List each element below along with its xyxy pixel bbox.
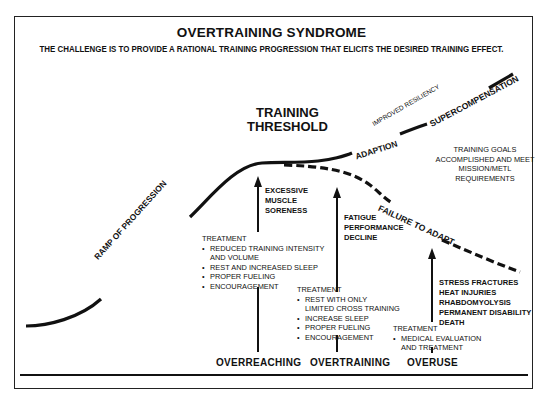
overreaching-treatment: TREATMENT REDUCED TRAINING INTENSITY AND… (202, 234, 324, 292)
goals-line: MISSION/METL (435, 164, 535, 174)
stage-overtraining: OVERTRAINING (310, 357, 390, 368)
decline-dashed-lower (442, 240, 520, 272)
goals-line: REQUIREMENTS (435, 174, 535, 184)
treatment-item: REST AND INCREASED SLEEP (202, 263, 324, 273)
symptom: RHABDOMYOLYSIS (439, 298, 531, 308)
diagram-title: OVERTRAINING SYNDROME (0, 25, 543, 40)
treatment-item: PROPER FUELING (202, 272, 324, 282)
training-threshold-label: TRAINING THRESHOLD (247, 106, 328, 134)
treatment-item: INCREASE SLEEP (297, 314, 400, 324)
treatment-item-cont: AND TREATMENT (393, 343, 481, 353)
threshold-line-1: TRAINING (247, 106, 328, 120)
goals-line: TRAINING GOALS (435, 145, 535, 155)
adaption-line (400, 124, 427, 134)
symptom: SORENESS (265, 206, 308, 216)
overuse-symptoms: STRESS FRACTURES HEAT INJURIES RHABDOMYO… (439, 278, 531, 328)
treatment-item: REST WITH ONLY (297, 295, 400, 305)
treatment-heading: TREATMENT (393, 324, 481, 334)
treatment-heading: TREATMENT (297, 285, 400, 295)
treatment-heading: TREATMENT (202, 234, 324, 244)
treatment-item: ENCOURAGEMENT (297, 333, 400, 343)
stage-overreaching: OVERREACHING (216, 357, 301, 368)
training-goals-text: TRAINING GOALS ACCOMPLISHED AND MEET MIS… (435, 145, 535, 183)
diagram-subtitle: THE CHALLENGE IS TO PROVIDE A RATIONAL T… (22, 44, 522, 54)
symptom: PERFORMANCE (344, 223, 404, 233)
overuse-treatment: TREATMENT MEDICAL EVALUATION AND TREATME… (393, 324, 481, 353)
treatment-item: MEDICAL EVALUATION (393, 334, 481, 344)
overreaching-symptoms: EXCESSIVE MUSCLE SORENESS (265, 186, 308, 216)
treatment-item-cont: LIMITED CROSS TRAINING (297, 304, 400, 314)
symptom: FATIGUE (344, 213, 404, 223)
threshold-line-2: THRESHOLD (247, 120, 328, 134)
treatment-item: REDUCED TRAINING INTENSITY (202, 244, 324, 254)
symptom: DECLINE (344, 233, 404, 243)
symptom: MUSCLE (265, 196, 308, 206)
symptom: HEAT INJURIES (439, 288, 531, 298)
goals-line: ACCOMPLISHED AND MEET (435, 155, 535, 165)
stage-overuse: OVERUSE (407, 357, 458, 368)
ramp-curve-lower (26, 299, 101, 326)
overtraining-symptoms: FATIGUE PERFORMANCE DECLINE (344, 213, 404, 243)
symptom: EXCESSIVE (265, 186, 308, 196)
treatment-item: PROPER FUELING (297, 323, 400, 333)
symptom: PERMANENT DISABILITY (439, 308, 531, 318)
symptom: STRESS FRACTURES (439, 278, 531, 288)
treatment-item-cont: AND VOLUME (202, 253, 324, 263)
overtraining-treatment: TREATMENT REST WITH ONLY LIMITED CROSS T… (297, 285, 400, 343)
